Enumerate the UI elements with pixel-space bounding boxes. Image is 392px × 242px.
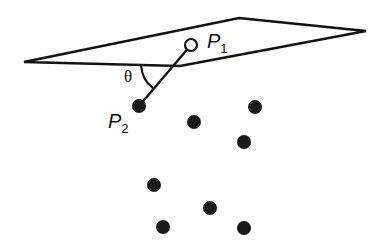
label-p1-subscript: 1 — [220, 41, 227, 56]
point — [156, 220, 170, 234]
point — [248, 100, 262, 114]
label-p1: P1 — [207, 30, 228, 56]
point — [237, 135, 251, 149]
segment-p1-p2 — [139, 45, 191, 106]
label-p2: P2 — [108, 110, 129, 136]
point — [187, 115, 201, 129]
label-p2-subscript: 2 — [121, 121, 128, 136]
angle-arc — [141, 65, 153, 88]
point — [237, 221, 251, 235]
diagram-canvas: P1 P2 θ — [0, 0, 392, 242]
point — [203, 201, 217, 215]
label-theta: θ — [124, 67, 132, 86]
point-p2 — [132, 99, 146, 113]
point-p1 — [185, 39, 197, 51]
point — [147, 178, 161, 192]
point-cloud — [147, 100, 262, 235]
